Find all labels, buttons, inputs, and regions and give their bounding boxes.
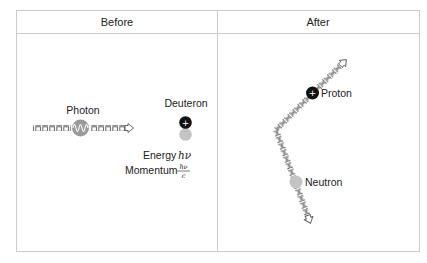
after-header: After [306, 16, 330, 28]
momentum-numerator: hν [179, 163, 187, 171]
photodisintegration-diagram: Before After Photon Deuteron + Energy hν… [0, 0, 427, 263]
photon-chain-right [90, 125, 126, 131]
energy-symbol: hν [178, 149, 192, 161]
proton-particle: + [306, 87, 319, 100]
before-header: Before [101, 16, 133, 28]
momentum-denominator: c [182, 172, 186, 180]
plus-icon: + [309, 88, 317, 98]
momentum-label: Momentum [125, 164, 178, 176]
photon-chain-left [33, 125, 71, 131]
plus-icon: + [182, 118, 190, 128]
photon-wavepacket-icon [72, 120, 89, 137]
photon-label: Photon [66, 104, 99, 116]
energy-label: Energy [143, 149, 177, 161]
neutron-particle [290, 176, 303, 189]
deuteron-label: Deuteron [164, 97, 207, 109]
proton-label: Proton [321, 87, 352, 99]
neutron-label: Neutron [305, 176, 343, 188]
deuteron-neutron [179, 128, 192, 141]
